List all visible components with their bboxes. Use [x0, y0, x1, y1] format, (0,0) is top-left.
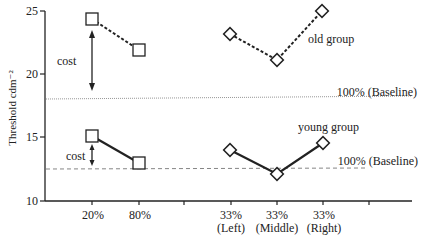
- old-group-series: [86, 5, 328, 67]
- young-baseline-label: 100% (Baseline): [338, 154, 418, 168]
- young-group-label: young group: [298, 120, 359, 134]
- x-tick-label: 80%: [129, 208, 151, 222]
- x-tick-label: 33%: [266, 208, 288, 222]
- y-tick-label: 10: [26, 194, 38, 208]
- threshold-chart: 25 20 15 10 Threshold cdm⁻² 20% 80% 33% …: [0, 0, 421, 236]
- x-tick-label: 33%: [313, 208, 335, 222]
- old-cost-label: cost: [57, 54, 77, 68]
- y-tick-label: 20: [26, 67, 38, 81]
- square-marker: [133, 44, 145, 56]
- young-cost-arrow: [90, 144, 95, 166]
- old-cost-arrow: [89, 30, 95, 91]
- young-baseline-line: [46, 168, 368, 169]
- old-group-label: old group: [308, 32, 354, 46]
- x-tick-sublabel: (Middle): [256, 221, 299, 235]
- y-tick-label: 15: [26, 130, 38, 144]
- y-ticks: [40, 11, 45, 201]
- young-cost-label: cost: [66, 149, 86, 163]
- diamond-marker: [316, 5, 329, 18]
- diamond-marker: [317, 137, 330, 150]
- diamond-marker: [224, 28, 237, 41]
- x-tick-sublabel: (Left): [217, 221, 245, 235]
- diamond-marker: [224, 144, 237, 157]
- x-tick-label: 33%: [220, 208, 242, 222]
- diamond-marker: [271, 168, 284, 181]
- young-group-series: [86, 130, 329, 180]
- old-baseline-label: 100% (Baseline): [337, 85, 417, 99]
- y-axis-label: Threshold cdm⁻²: [6, 70, 18, 146]
- x-tick-sublabel: (Right): [307, 221, 342, 235]
- x-tick-label: 20%: [82, 208, 104, 222]
- square-marker: [133, 157, 145, 169]
- square-marker: [86, 13, 98, 25]
- square-marker: [86, 130, 98, 142]
- y-tick-label: 25: [26, 4, 38, 18]
